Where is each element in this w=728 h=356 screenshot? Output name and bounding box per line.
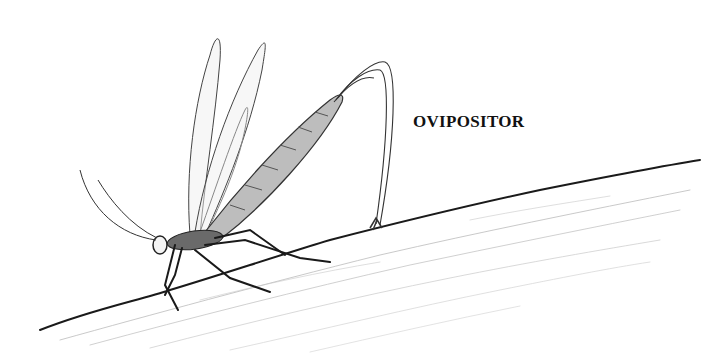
body	[153, 227, 224, 254]
log	[40, 160, 700, 352]
wasp-drawing	[0, 0, 728, 356]
antennae	[80, 170, 157, 240]
ovipositor-label: OVIPOSITOR	[413, 112, 524, 132]
ovipositor	[334, 62, 393, 230]
illustration: OVIPOSITOR	[0, 0, 728, 356]
